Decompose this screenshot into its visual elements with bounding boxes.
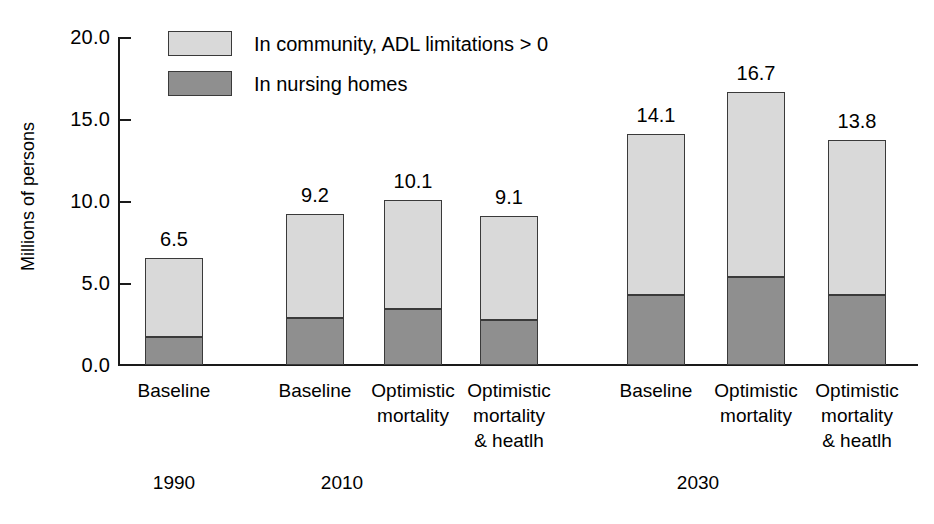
category-line-1: Baseline: [106, 378, 242, 403]
bar-segment-nursing-homes: [145, 337, 203, 365]
legend-label-in-community: In community, ADL limitations > 0: [254, 34, 548, 54]
y-tick-15: [118, 119, 131, 121]
category-label-2030-optimistic-mortality-health: Optimistic mortality & heatlh: [789, 378, 925, 453]
category-label-1990-baseline: Baseline: [106, 378, 242, 403]
bar-segment-in-community: [727, 92, 785, 277]
category-line-1: Optimistic: [441, 378, 577, 403]
y-tick-label-0: 0.0: [38, 355, 110, 375]
bar-segment-in-community: [627, 134, 685, 295]
bar-2030-optimistic-mortality: [727, 92, 785, 365]
bar-segment-nursing-homes: [384, 309, 442, 365]
bar-value-label: 16.7: [706, 62, 806, 84]
bar-segment-in-community: [384, 200, 442, 309]
bar-segment-nursing-homes: [727, 277, 785, 365]
y-tick-20: [118, 37, 131, 39]
bar-segment-in-community: [145, 258, 203, 337]
stacked-bar-chart: Millions of persons 20.0 15.0 10.0 5.0 0…: [0, 0, 934, 524]
bar-value-label: 13.8: [807, 110, 907, 132]
y-tick-label-10: 10.0: [38, 191, 110, 211]
category-line-3: & heatlh: [789, 428, 925, 453]
bar-2010-optimistic-mortality-health: [480, 216, 538, 365]
category-line-3: & heatlh: [441, 428, 577, 453]
bar-segment-in-community: [828, 140, 886, 295]
legend-item-nursing-homes: In nursing homes: [168, 71, 407, 96]
bar-segment-nursing-homes: [828, 295, 886, 365]
y-tick-0: [118, 364, 131, 366]
group-label-2010: 2010: [272, 472, 412, 494]
group-label-2030: 2030: [628, 472, 768, 494]
bar-value-label: 14.1: [606, 104, 706, 126]
bar-segment-in-community: [480, 216, 538, 320]
y-tick-label-15: 15.0: [38, 109, 110, 129]
bar-value-label: 9.1: [459, 186, 559, 208]
y-tick-5: [118, 283, 131, 285]
bar-segment-in-community: [286, 214, 344, 318]
y-tick-label-20: 20.0: [38, 27, 110, 47]
legend-item-in-community: In community, ADL limitations > 0: [168, 31, 548, 56]
bar-segment-nursing-homes: [627, 295, 685, 365]
y-tick-10: [118, 201, 131, 203]
bar-2030-optimistic-mortality-health: [828, 140, 886, 365]
bar-value-label: 9.2: [265, 184, 365, 206]
bar-value-label: 6.5: [124, 228, 224, 250]
bar-value-label: 10.1: [363, 170, 463, 192]
bar-1990-baseline: [145, 258, 203, 365]
category-label-2010-optimistic-mortality-health: Optimistic mortality & heatlh: [441, 378, 577, 453]
group-label-1990: 1990: [104, 472, 244, 494]
bar-2010-baseline: [286, 214, 344, 365]
legend-swatch-nursing-homes: [168, 71, 232, 96]
category-line-2: mortality: [789, 403, 925, 428]
bar-2010-optimistic-mortality: [384, 200, 442, 365]
bar-segment-nursing-homes: [480, 320, 538, 365]
bar-segment-nursing-homes: [286, 318, 344, 365]
legend-swatch-in-community: [168, 31, 232, 56]
bar-2030-baseline: [627, 134, 685, 365]
legend-label-nursing-homes: In nursing homes: [254, 74, 407, 94]
category-line-2: mortality: [441, 403, 577, 428]
y-tick-label-5: 5.0: [38, 273, 110, 293]
category-line-1: Optimistic: [789, 378, 925, 403]
